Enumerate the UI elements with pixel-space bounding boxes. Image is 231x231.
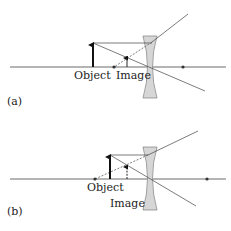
object-label: Object <box>87 181 124 194</box>
panel-label: (b) <box>7 205 23 218</box>
panel-label: (a) <box>7 95 22 108</box>
refracted-ray <box>152 14 188 42</box>
diverging-lens-diagram: Object Image (a) Object Image (b) <box>0 0 231 231</box>
focal-point-right <box>181 65 184 68</box>
refracted-ray <box>148 131 198 155</box>
focal-point-right <box>205 177 208 180</box>
image-label: Image <box>110 197 145 210</box>
object-label: Object <box>74 69 111 82</box>
panel-a: Object Image (a) <box>7 14 226 108</box>
image-label: Image <box>116 69 151 82</box>
panel-b: Object Image (b) <box>7 131 226 218</box>
virtual-ray-extension <box>95 155 148 179</box>
